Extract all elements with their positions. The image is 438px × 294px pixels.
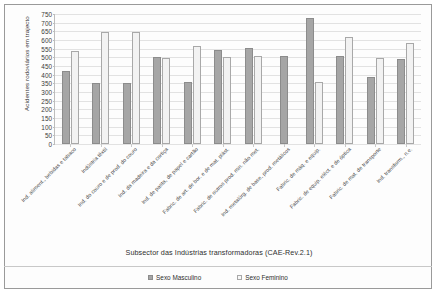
bar xyxy=(306,18,314,144)
x-axis-tick-labels: Ind. aliment., bebidas e tabacoIndústria… xyxy=(54,146,420,224)
bar-group xyxy=(55,14,86,144)
y-tick-label: 450 xyxy=(41,63,52,70)
x-tick-label: Ind. de pasta, de papel e cartão xyxy=(140,146,199,205)
bar xyxy=(397,59,405,144)
bar-group xyxy=(330,14,361,144)
bar-group xyxy=(147,14,178,144)
bar xyxy=(193,46,201,144)
bar-group xyxy=(360,14,391,144)
x-tick-label: Fabric. de equip. eléct. e de óptica xyxy=(288,146,352,210)
y-tick-label: 650 xyxy=(41,28,52,35)
legend-item[interactable]: Sexo Feminino xyxy=(237,274,288,281)
bar xyxy=(62,71,70,144)
y-tick-label: 550 xyxy=(41,45,52,52)
chart-legend: Sexo MasculinoSexo Feminino xyxy=(4,266,432,287)
legend-item[interactable]: Sexo Masculino xyxy=(148,274,201,281)
bar xyxy=(406,43,414,144)
bar xyxy=(101,32,109,144)
x-tick-label: Ind. do couro e de prod. do couro xyxy=(77,146,139,208)
y-tick-label: 600 xyxy=(41,37,52,44)
bar xyxy=(162,58,170,144)
gridline xyxy=(55,144,421,145)
bar xyxy=(214,50,222,144)
bar-series-container xyxy=(55,14,421,144)
legend-label: Sexo Feminino xyxy=(245,274,288,281)
plot-area: 7507006506005505004504003503002502001501… xyxy=(54,14,420,145)
bar xyxy=(254,56,262,144)
bar xyxy=(123,83,131,144)
y-tick-label: 50 xyxy=(45,132,52,139)
bar-group xyxy=(391,14,422,144)
bar xyxy=(92,83,100,144)
bar xyxy=(153,57,161,144)
bar xyxy=(71,51,79,144)
bar-group xyxy=(269,14,300,144)
y-tick-label: 400 xyxy=(41,71,52,78)
bar-group xyxy=(86,14,117,144)
y-tick-label: 0 xyxy=(48,141,52,148)
y-tick-label: 700 xyxy=(41,19,52,26)
bar-group xyxy=(177,14,208,144)
bar-group xyxy=(299,14,330,144)
y-tick-label: 250 xyxy=(41,97,52,104)
x-tick-label: Fabric. de outros prod. min. não met. xyxy=(192,146,260,214)
x-tick-label: Fabric. de mat. de transporte xyxy=(328,146,382,200)
x-tick-label: Indústria têxtil xyxy=(80,146,108,174)
bar xyxy=(223,57,231,144)
feminino-swatch xyxy=(237,275,242,280)
bar xyxy=(367,77,375,144)
bar xyxy=(315,82,323,144)
masculino-swatch xyxy=(148,275,153,280)
x-axis-title: Subsector das Indústrias transformadoras… xyxy=(0,248,438,257)
y-tick-label: 150 xyxy=(41,115,52,122)
bar-group xyxy=(208,14,239,144)
y-tick-label: 300 xyxy=(41,89,52,96)
bar xyxy=(132,32,140,144)
y-tick-label: 350 xyxy=(41,80,52,87)
bar-group xyxy=(238,14,269,144)
y-tick-label: 500 xyxy=(41,54,52,61)
y-tick-label: 200 xyxy=(41,106,52,113)
bar xyxy=(280,56,288,144)
plot-area-wrapper: 7507006506005505004504003503002502001501… xyxy=(54,14,420,145)
y-tick-mark xyxy=(53,144,55,145)
y-axis-title: Acidentes rodoviários em trajecto xyxy=(23,0,30,134)
bar xyxy=(245,48,253,144)
legend-label: Sexo Masculino xyxy=(156,274,201,281)
y-tick-label: 100 xyxy=(41,123,52,130)
bar xyxy=(336,56,344,144)
bar xyxy=(376,58,384,144)
bar xyxy=(184,82,192,144)
y-tick-label: 750 xyxy=(41,11,52,18)
chart-figure: Acidentes rodoviários em trajecto 750700… xyxy=(0,0,438,294)
bar-group xyxy=(116,14,147,144)
bar xyxy=(345,37,353,144)
